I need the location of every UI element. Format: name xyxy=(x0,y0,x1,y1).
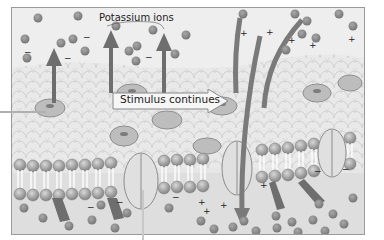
svg-text:−: − xyxy=(342,164,350,174)
svg-text:+: + xyxy=(203,206,211,216)
svg-text:+: + xyxy=(288,35,296,45)
svg-text:−: − xyxy=(145,52,153,62)
svg-text:−: − xyxy=(87,202,95,212)
membrane-illustration: − − − − + + + + + + + + − − − − − + xyxy=(12,8,364,234)
svg-text:+: + xyxy=(240,28,248,38)
svg-text:−: − xyxy=(172,192,180,202)
stimulus-callout: Stimulus continues xyxy=(112,89,224,111)
svg-text:+: + xyxy=(348,34,356,44)
svg-text:+: + xyxy=(266,27,274,37)
svg-text:+: + xyxy=(260,180,268,190)
stimulus-label: Stimulus continues xyxy=(120,93,220,105)
svg-text:−: − xyxy=(24,47,32,57)
svg-text:−: − xyxy=(314,166,322,176)
svg-text:+: + xyxy=(220,200,228,210)
svg-text:−: − xyxy=(116,197,124,207)
svg-text:−: − xyxy=(83,32,91,42)
svg-text:+: + xyxy=(309,40,317,50)
svg-text:−: − xyxy=(64,53,72,63)
potassium-ions-label: Potassium ions xyxy=(99,12,174,23)
membrane-diagram: − − − − + + + + + + + + − − − − − + Stim… xyxy=(11,7,365,235)
